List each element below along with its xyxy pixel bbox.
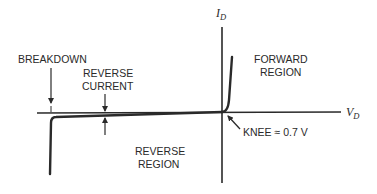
y-axis-label: ID bbox=[215, 6, 227, 22]
x-axis-label: VD bbox=[346, 105, 360, 121]
forward-curve bbox=[222, 57, 232, 112]
forward-region-label-line1: FORWARD bbox=[254, 53, 308, 65]
forward-region-label-line2: REGION bbox=[260, 66, 301, 78]
reverse-region-label-line1: REVERSE bbox=[135, 145, 185, 157]
reverse-region-label-line2: REGION bbox=[138, 158, 179, 170]
reverse-current-label-line1: REVERSE bbox=[83, 67, 133, 79]
reverse-curve bbox=[50, 112, 222, 174]
breakdown-label: BREAKDOWN bbox=[18, 53, 87, 65]
reverse-current-label-line2: CURRENT bbox=[82, 80, 134, 92]
knee-label: KNEE ≈ 0.7 V bbox=[243, 126, 308, 138]
knee-arrow bbox=[228, 116, 240, 129]
diode-iv-diagram: ID VD BREAKDOWN REVERSE CURRENT FORWARD … bbox=[0, 0, 377, 194]
